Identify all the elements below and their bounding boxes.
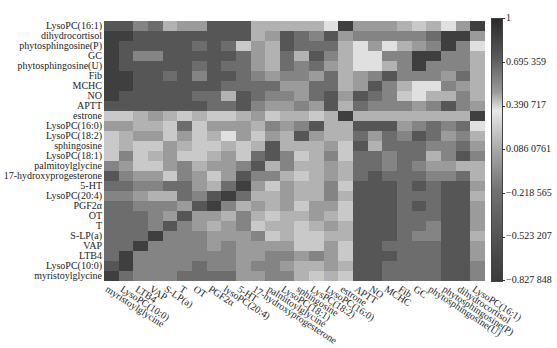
- heatmap-cell: [309, 211, 324, 221]
- heatmap-cell: [207, 31, 222, 41]
- heatmap-cell: [397, 21, 412, 31]
- heatmap-cell: [177, 91, 192, 101]
- heatmap-cell: [133, 171, 148, 181]
- heatmap-cell: [368, 191, 383, 201]
- heatmap-cell: [265, 241, 280, 251]
- heatmap-cell: [265, 261, 280, 271]
- heatmap-cell: [338, 41, 353, 51]
- heatmap-cell: [163, 21, 178, 31]
- heatmap-cell: [324, 161, 339, 171]
- heatmap-cell: [412, 61, 427, 71]
- heatmap-cell: [309, 231, 324, 241]
- heatmap-cell: [368, 71, 383, 81]
- heatmap-cell: [294, 131, 309, 141]
- heatmap-cell: [265, 221, 280, 231]
- heatmap-cell: [412, 161, 427, 171]
- heatmap-cell: [265, 121, 280, 131]
- heatmap-cell: [382, 141, 397, 151]
- heatmap-cell: [338, 91, 353, 101]
- heatmap-cell: [368, 51, 383, 61]
- heatmap-cell: [338, 181, 353, 191]
- heatmap-cell: [177, 141, 192, 151]
- heatmap-cell: [294, 251, 309, 261]
- heatmap-cell: [104, 111, 119, 121]
- heatmap-cell: [119, 81, 134, 91]
- heatmap-cell: [456, 81, 471, 91]
- heatmap-cell: [280, 211, 295, 221]
- heatmap-cell: [119, 221, 134, 231]
- heatmap-cell: [104, 161, 119, 171]
- heatmap-cell: [221, 121, 236, 131]
- heatmap-cell: [148, 41, 163, 51]
- heatmap-cell: [412, 71, 427, 81]
- heatmap-cell: [382, 61, 397, 71]
- heatmap-cell: [265, 181, 280, 191]
- heatmap-cell: [397, 221, 412, 231]
- heatmap-cell: [397, 131, 412, 141]
- heatmap-cell: [192, 41, 207, 51]
- heatmap-cell: [265, 81, 280, 91]
- heatmap-cell: [470, 261, 485, 271]
- heatmap-cell: [207, 241, 222, 251]
- heatmap-cell: [294, 151, 309, 161]
- heatmap-cell: [324, 181, 339, 191]
- heatmap-cell: [148, 121, 163, 131]
- heatmap-cell: [148, 271, 163, 281]
- heatmap-cell: [119, 141, 134, 151]
- heatmap-cell: [104, 101, 119, 111]
- heatmap-cell: [456, 21, 471, 31]
- heatmap-cell: [441, 121, 456, 131]
- heatmap-cell: [309, 171, 324, 181]
- heatmap-cell: [426, 141, 441, 151]
- heatmap-cell: [309, 121, 324, 131]
- heatmap-cell: [221, 161, 236, 171]
- heatmap-cell: [368, 111, 383, 121]
- heatmap-cell: [148, 51, 163, 61]
- heatmap-cell: [368, 81, 383, 91]
- heatmap-cell: [441, 191, 456, 201]
- heatmap-cell: [133, 251, 148, 261]
- heatmap-cell: [251, 121, 266, 131]
- heatmap-cell: [294, 101, 309, 111]
- heatmap-cell: [309, 151, 324, 161]
- heatmap-cell: [470, 31, 485, 41]
- heatmap-cell: [148, 231, 163, 241]
- row-label: myristoylglycine: [34, 271, 102, 281]
- heatmap-cell: [397, 61, 412, 71]
- heatmap-cell: [426, 61, 441, 71]
- heatmap-cell: [163, 91, 178, 101]
- heatmap-cell: [294, 211, 309, 221]
- heatmap-cell: [251, 161, 266, 171]
- heatmap-cell: [426, 31, 441, 41]
- heatmap-cell: [119, 191, 134, 201]
- heatmap-cell: [353, 211, 368, 221]
- heatmap-cell: [221, 111, 236, 121]
- heatmap-cell: [280, 201, 295, 211]
- heatmap-cell: [280, 101, 295, 111]
- heatmap-cell: [133, 81, 148, 91]
- heatmap-cell: [441, 161, 456, 171]
- heatmap-cell: [324, 121, 339, 131]
- heatmap-cell: [221, 91, 236, 101]
- heatmap-cell: [397, 251, 412, 261]
- heatmap-cell: [456, 91, 471, 101]
- heatmap-cell: [353, 101, 368, 111]
- heatmap-cell: [368, 171, 383, 181]
- heatmap-cell: [148, 31, 163, 41]
- heatmap-cell: [163, 191, 178, 201]
- heatmap-cell: [251, 191, 266, 201]
- heatmap-cell: [265, 101, 280, 111]
- heatmap-cell: [133, 151, 148, 161]
- heatmap-cell: [148, 21, 163, 31]
- heatmap-cell: [382, 31, 397, 41]
- heatmap-cell: [177, 261, 192, 271]
- heatmap-cell: [412, 151, 427, 161]
- heatmap-cell: [456, 181, 471, 191]
- heatmap-cell: [309, 91, 324, 101]
- heatmap-cell: [119, 181, 134, 191]
- heatmap-cell: [368, 121, 383, 131]
- heatmap-cell: [221, 271, 236, 281]
- colorbar-tick-label: −0.218 565: [502, 188, 552, 198]
- heatmap-cell: [119, 91, 134, 101]
- heatmap-cell: [221, 31, 236, 41]
